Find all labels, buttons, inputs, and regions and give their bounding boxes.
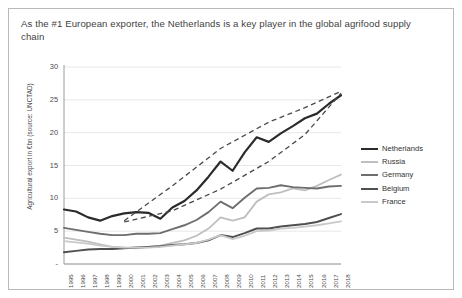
upper-envelope xyxy=(124,91,341,220)
slide-title: As the #1 European exporter, the Netherl… xyxy=(21,17,425,43)
legend-label: France xyxy=(382,196,406,208)
slide-frame: As the #1 European exporter, the Netherl… xyxy=(8,8,454,290)
line-chart: Agricultural export in €bn (source: UNCT… xyxy=(9,47,455,289)
series-line-russia xyxy=(64,175,341,249)
series-line-netherlands xyxy=(64,95,341,220)
lower-envelope xyxy=(124,93,341,222)
legend-label: Belgium xyxy=(382,183,409,195)
legend-swatch-icon xyxy=(361,161,378,163)
legend-swatch-icon xyxy=(361,188,378,190)
legend-label: Russia xyxy=(382,156,405,168)
legend-label: Netherlands xyxy=(382,143,423,155)
legend-swatch-icon xyxy=(361,174,378,176)
legend-swatch-icon xyxy=(361,201,378,203)
legend-swatch-icon xyxy=(361,148,378,150)
legend-label: Germany xyxy=(382,169,413,181)
